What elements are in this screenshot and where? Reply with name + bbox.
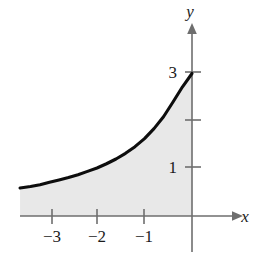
shaded-area-region xyxy=(20,74,192,217)
y-tick-label-3: 3 xyxy=(169,63,178,82)
y-tick-label-1: 1 xyxy=(169,158,178,177)
x-tick-label-minus-2: −2 xyxy=(88,227,106,246)
exponential-area-chart: −3 −2 −1 1 3 x y xyxy=(0,0,265,259)
x-tick-label-minus-3: −3 xyxy=(43,227,61,246)
x-tick-label-minus-1: −1 xyxy=(135,227,153,246)
y-axis-arrow-icon xyxy=(187,23,197,34)
figure-container: −3 −2 −1 1 3 x y xyxy=(0,0,265,259)
x-axis-label: x xyxy=(240,207,249,226)
y-axis-label: y xyxy=(184,2,194,21)
